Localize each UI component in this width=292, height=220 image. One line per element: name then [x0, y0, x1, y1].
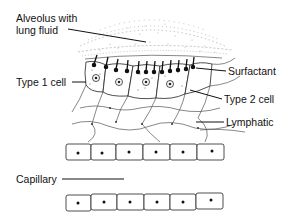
capillary-wall-upper — [66, 144, 224, 160]
label-capillary: Capillary — [16, 173, 57, 185]
label-surfactant: Surfactant — [228, 65, 276, 77]
label-alveolus-line2: lung fluid — [16, 24, 77, 36]
label-type1-cell: Type 1 cell — [16, 76, 66, 88]
label-alveolus-line1: Alveolus with — [16, 12, 77, 24]
label-lymphatic: Lymphatic — [226, 116, 273, 128]
capillary-wall-lower — [66, 193, 223, 211]
label-alveolus: Alveolus with lung fluid — [16, 12, 77, 36]
label-type2-cell: Type 2 cell — [224, 93, 274, 105]
alveolar-fluid — [78, 20, 232, 59]
